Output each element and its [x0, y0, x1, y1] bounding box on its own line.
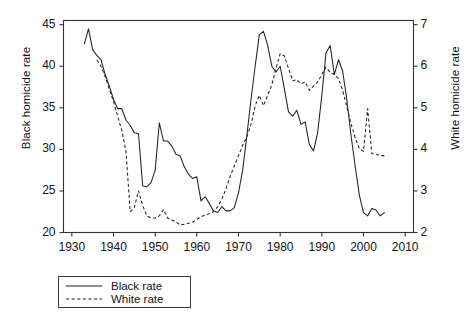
plot-area	[0, 0, 475, 321]
y-axis-left-ticks	[60, 25, 64, 233]
legend-swatch-solid-line-icon	[65, 281, 103, 291]
x-tick-2000: 2000	[342, 240, 386, 254]
y-axis-right-ticks	[414, 25, 418, 233]
y-tick-left-40: 40	[26, 58, 56, 72]
legend-label-black-rate: Black rate	[111, 280, 162, 292]
y-tick-left-35: 35	[26, 100, 56, 114]
y-tick-right-7: 7	[421, 17, 451, 31]
y-tick-right-6: 6	[421, 58, 451, 72]
y-tick-left-45: 45	[26, 17, 56, 31]
x-tick-1960: 1960	[175, 240, 219, 254]
x-axis-ticks	[72, 233, 405, 237]
y-tick-right-5: 5	[421, 100, 451, 114]
legend-label-white-rate: White rate	[111, 293, 163, 305]
x-tick-1970: 1970	[217, 240, 261, 254]
y-tick-right-4: 4	[421, 141, 451, 155]
series-line-white-rate	[97, 54, 385, 225]
legend-swatch-dashed-line-icon	[65, 294, 103, 304]
x-tick-2010: 2010	[383, 240, 427, 254]
x-tick-1980: 1980	[258, 240, 302, 254]
legend-item-black-rate: Black rate	[65, 279, 162, 293]
x-tick-1930: 1930	[50, 240, 94, 254]
y-tick-left-30: 30	[26, 141, 56, 155]
chart-legend: Black rate White rate	[58, 276, 191, 308]
y-tick-left-20: 20	[26, 225, 56, 239]
x-tick-1940: 1940	[92, 240, 136, 254]
series-line-black-rate	[84, 29, 384, 216]
legend-item-white-rate: White rate	[65, 292, 163, 306]
x-tick-1990: 1990	[300, 240, 344, 254]
y-tick-left-25: 25	[26, 183, 56, 197]
y-tick-right-2: 2	[421, 225, 451, 239]
y-tick-right-3: 3	[421, 183, 451, 197]
x-tick-1950: 1950	[133, 240, 177, 254]
chart-figure: Black homicide rate White homicide rate …	[0, 0, 475, 321]
